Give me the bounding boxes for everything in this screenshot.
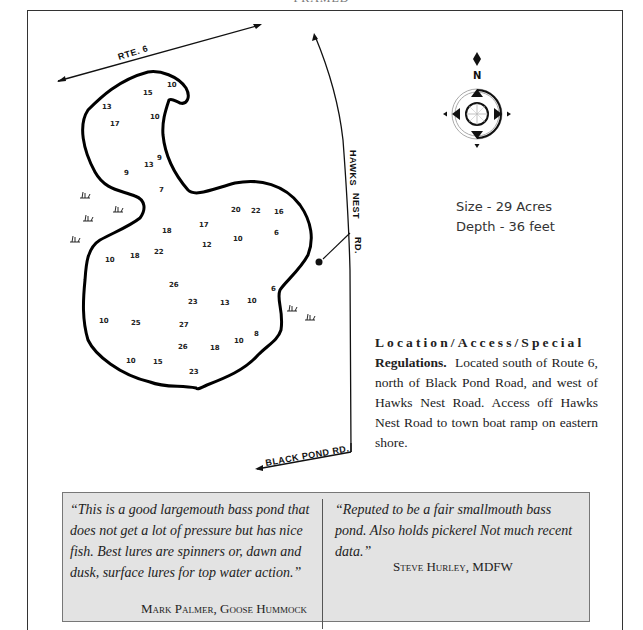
depth-label: 27 — [179, 321, 189, 329]
compass-n-label: N — [473, 70, 481, 81]
hawks-nest-label-2: NEST — [351, 193, 361, 219]
depth-label: 13 — [102, 103, 112, 111]
quote-text-right: “Reputed to be a fair smallmouth bass po… — [335, 499, 580, 562]
regulations-heading: Regulations. — [375, 355, 447, 370]
depth-label: 22 — [154, 248, 164, 256]
depth-label: 26 — [178, 343, 188, 351]
quotes-box: “This is a good largemouth bass pond tha… — [62, 492, 590, 622]
depth-label: 9 — [124, 169, 129, 177]
depth-label: 10 — [233, 235, 243, 243]
size-stat: Size - 29 Acres — [456, 197, 555, 217]
compass-rose-icon: N — [443, 52, 511, 148]
depth-label: 13 — [144, 161, 154, 169]
depth-label: 18 — [210, 344, 220, 352]
marsh-icon — [80, 192, 90, 198]
depth-label: 10 — [234, 337, 244, 345]
depth-label: 23 — [188, 298, 198, 306]
depth-label: 17 — [199, 221, 209, 229]
depth-label: 26 — [169, 281, 179, 289]
depth-label: 18 — [162, 227, 172, 235]
location-section: Location/Access/Special Regulations. Loc… — [375, 333, 598, 453]
rte6-label: RTE. 6 — [117, 43, 150, 62]
depth-soundings: 15 10 13 17 10 9 13 9 7 20 22 16 17 18 6… — [99, 81, 284, 376]
depth-label: 8 — [254, 330, 259, 338]
depth-label: 6 — [271, 285, 276, 293]
depth-label: 15 — [153, 358, 163, 366]
black-pond-label: BLACK POND RD. — [265, 443, 350, 468]
depth-label: 23 — [189, 368, 199, 376]
black-pond-road: BLACK POND RD. — [255, 443, 351, 471]
depth-label: 13 — [220, 299, 230, 307]
hawks-nest-label-3: RD. — [353, 237, 363, 254]
depth-label: 10 — [150, 113, 160, 121]
marsh-icon — [113, 206, 123, 212]
depth-label: 10 — [167, 81, 177, 89]
pond-stats: Size - 29 Acres Depth - 36 feet — [456, 197, 555, 237]
depth-label: 16 — [274, 208, 284, 216]
depth-label: 10 — [105, 256, 115, 264]
marsh-icon — [83, 215, 93, 221]
depth-stat: Depth - 36 feet — [456, 217, 555, 237]
depth-label: 25 — [131, 319, 141, 327]
depth-label: 10 — [126, 357, 136, 365]
depth-label: 22 — [251, 207, 261, 215]
boat-ramp — [316, 233, 351, 266]
marsh-icon — [70, 236, 80, 242]
quote-text-left: “This is a good largemouth bass pond tha… — [70, 499, 315, 583]
hawks-nest-road: HAWKS NEST RD. — [312, 33, 363, 452]
depth-label: 20 — [231, 206, 241, 214]
marsh-icon — [287, 305, 297, 311]
depth-label: 9 — [157, 154, 162, 162]
hawks-nest-label-1: HAWKS — [348, 150, 358, 186]
depth-label: 12 — [202, 241, 212, 249]
depth-label: 7 — [159, 186, 164, 194]
depth-label: 10 — [247, 297, 257, 305]
location-heading: Location/Access/Special — [375, 333, 598, 353]
quote-author-right: Steve Hurley, MDFW — [393, 559, 513, 575]
depth-label: 10 — [99, 317, 109, 325]
marsh-icon — [305, 314, 315, 320]
depth-label: 6 — [274, 229, 279, 237]
depth-label: 17 — [110, 120, 120, 128]
quote-author-left: Mark Palmer, Goose Hummock — [141, 601, 307, 617]
depth-label: 15 — [143, 89, 153, 97]
quote-divider — [322, 499, 323, 629]
depth-label: 18 — [130, 252, 140, 260]
